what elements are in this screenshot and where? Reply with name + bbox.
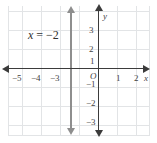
- grid-line-vertical: [22, 6, 23, 136]
- equation-relation: = −2: [36, 28, 59, 42]
- grid-line-vertical: [60, 6, 61, 136]
- line-x-equals-negative-2: [70, 11, 72, 132]
- y-tick-label-3: 3: [89, 26, 94, 35]
- grid-line-vertical: [136, 6, 137, 136]
- y-tick-label-neg2: −2: [86, 99, 96, 108]
- equation-variable: x: [28, 28, 33, 42]
- grid-line-horizontal: [8, 11, 150, 12]
- y-axis-arrow-down-icon: [95, 130, 103, 137]
- origin-label: O: [90, 72, 97, 81]
- y-tick-label-2: 2: [89, 45, 94, 54]
- x-tick-label-neg5: −5: [12, 74, 22, 83]
- x-axis-arrow-left-icon: [2, 65, 9, 73]
- grid-line-vertical: [79, 6, 80, 136]
- y-tick-label-neg3: −3: [86, 118, 96, 127]
- y-tick-label-1: 1: [90, 57, 95, 66]
- grid-line-horizontal: [8, 87, 150, 88]
- x-tick-label-1: 1: [116, 74, 121, 83]
- coordinate-plane-figure: −5 −4 −3 1 2 3 2 1 −1 −2 −3 O x y x = −2: [0, 0, 157, 143]
- x-tick-label-neg3: −3: [50, 74, 60, 83]
- x-axis-arrow-right-icon: [143, 65, 150, 73]
- x-tick-label-2: 2: [134, 74, 139, 83]
- grid-line-vertical: [117, 6, 118, 136]
- grid-line-horizontal: [8, 135, 150, 136]
- grid-line-horizontal: [8, 125, 150, 126]
- y-axis-arrow-up-icon: [95, 4, 103, 11]
- y-axis-label: y: [103, 12, 107, 21]
- x-tick-label-neg4: −4: [31, 74, 41, 83]
- y-tick-label-neg1: −1: [86, 80, 96, 89]
- line-arrow-up-icon: [67, 6, 75, 13]
- grid-area: [8, 6, 150, 136]
- y-axis: [98, 9, 99, 134]
- x-axis: [5, 68, 147, 69]
- x-axis-label: x: [144, 74, 148, 83]
- line-arrow-down-icon: [67, 128, 75, 135]
- grid-line-horizontal: [8, 106, 150, 107]
- grid-line-vertical: [41, 6, 42, 136]
- grid-line-horizontal: [8, 49, 150, 50]
- equation-label: x = −2: [28, 29, 59, 41]
